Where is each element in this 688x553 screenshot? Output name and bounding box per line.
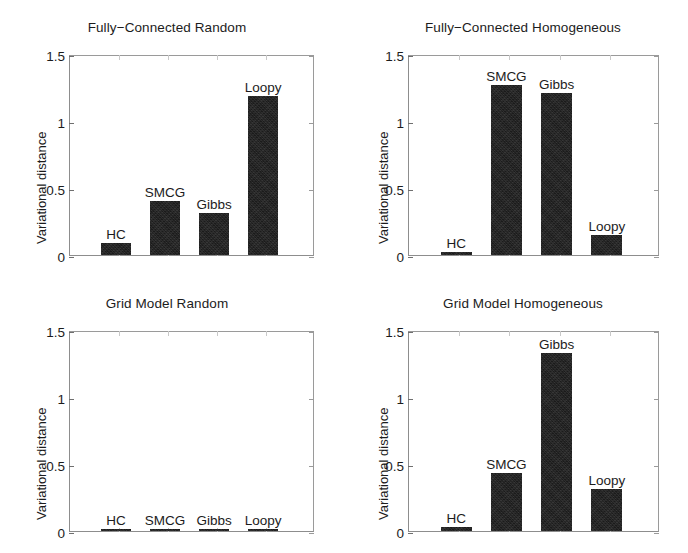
bar [248,96,278,255]
plot-area: 00.511.5HCSMCGGibbsLoopy [408,55,659,256]
bar-label: Loopy [588,219,625,234]
y-axis-tick-label: 1 [57,116,65,131]
bar-label: Gibbs [539,337,574,352]
bar-series: HCSMCGGibbsLoopy [409,332,658,531]
bar [541,353,572,531]
y-axis-tick-label: 0.5 [385,183,404,198]
chart-panel-fully-connected-random: Fully−Connected RandomVariational distan… [0,0,344,276]
chart-panel-grid-model-homogeneous: Grid Model HomogeneousVariational distan… [344,276,688,553]
y-axis-tick-right [309,257,314,258]
bar [150,201,180,255]
chart-panel-fully-connected-homogeneous: Fully−Connected HomogeneousVariational d… [344,0,688,276]
panel-title: Grid Model Homogeneous [344,296,688,311]
y-axis-tick-right [309,533,314,534]
bar [101,529,131,531]
y-axis-tick [69,257,74,258]
bar [491,85,522,255]
bar-label: SMCG [486,457,527,472]
y-axis-tick-label: 1 [396,116,404,131]
y-axis-tick-right [654,257,659,258]
y-axis-tick-right [654,533,659,534]
bar-series: HCSMCGGibbsLoopy [409,56,658,255]
bar-label: Loopy [245,80,282,95]
y-axis-tick-label: 0.5 [46,183,65,198]
bar [150,529,180,531]
bar-label: Gibbs [196,513,231,528]
y-axis-tick-label: 1.5 [46,325,65,340]
y-axis-tick-label: 0 [396,250,404,265]
bar-label: Gibbs [539,77,574,92]
figure-panel-grid: Fully−Connected RandomVariational distan… [0,0,688,553]
bar-label: SMCG [145,513,186,528]
bar-label: HC [446,236,466,251]
plot-area: 00.511.5HCSMCGGibbsLoopy [408,331,659,532]
plot-area: 00.511.5HCSMCGGibbsLoopy [69,55,314,256]
bar-label: HC [446,511,466,526]
y-axis-tick [69,533,74,534]
chart-panel-grid-model-random: Grid Model RandomVariational distance00.… [0,276,344,553]
bar-label: HC [106,227,126,242]
bar-series: HCSMCGGibbsLoopy [70,56,313,255]
bar-label: SMCG [145,185,186,200]
bar [441,252,472,255]
y-axis-tick [408,533,413,534]
bar [441,527,472,531]
panel-title: Fully−Connected Homogeneous [344,20,688,35]
y-axis-tick-label: 0.5 [46,459,65,474]
y-axis-tick-label: 1.5 [46,49,65,64]
y-axis-tick-label: 1.5 [385,325,404,340]
bar [101,243,131,255]
bar [199,213,229,255]
y-axis-tick [408,257,413,258]
panel-title: Fully−Connected Random [0,20,344,35]
bar [591,489,622,531]
plot-area: 00.511.5HCSMCGGibbsLoopy [69,331,314,532]
panel-title: Grid Model Random [0,296,344,311]
bar-label: Loopy [245,513,282,528]
bar [199,529,229,531]
y-axis-tick-label: 1 [396,392,404,407]
y-axis-tick-label: 0 [57,250,65,265]
y-axis-tick-label: 0.5 [385,459,404,474]
bar [591,235,622,255]
bar-label: Gibbs [196,197,231,212]
y-axis-tick-label: 0 [396,526,404,541]
y-axis-tick-label: 1.5 [385,49,404,64]
bar-label: Loopy [588,473,625,488]
bar-label: HC [106,513,126,528]
bar [541,93,572,255]
bar [491,473,522,531]
bar-label: SMCG [486,69,527,84]
y-axis-tick-label: 1 [57,392,65,407]
y-axis-tick-label: 0 [57,526,65,541]
bar [248,529,278,531]
bar-series: HCSMCGGibbsLoopy [70,332,313,531]
